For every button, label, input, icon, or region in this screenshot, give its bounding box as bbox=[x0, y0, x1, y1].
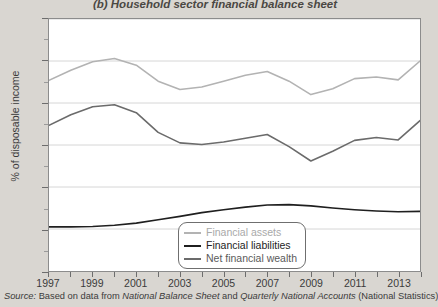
x-axis-tick bbox=[421, 272, 422, 277]
legend-item-financial-assets: Financial assets bbox=[184, 226, 297, 239]
x-axis-tick-label: 1999 bbox=[70, 277, 114, 289]
x-axis-tick-label: 2007 bbox=[245, 277, 289, 289]
x-axis-tick-label: 2013 bbox=[377, 277, 421, 289]
legend-label: Net financial wealth bbox=[206, 252, 297, 265]
legend-swatch-icon bbox=[184, 258, 201, 260]
legend-item-net-financial-wealth: Net financial wealth bbox=[184, 252, 297, 265]
y-axis-title: % of disposable income bbox=[9, 51, 21, 201]
x-axis-tick-label: 2005 bbox=[202, 277, 246, 289]
legend-label: Financial liabilities bbox=[206, 239, 291, 252]
y-axis-tick bbox=[42, 103, 48, 104]
legend-swatch-icon bbox=[184, 232, 201, 234]
series-line bbox=[49, 58, 420, 94]
y-axis-tick bbox=[42, 230, 48, 231]
source-text-2: and bbox=[220, 291, 241, 301]
source-note: Source: Based on data from National Bala… bbox=[4, 291, 430, 301]
legend-swatch-icon bbox=[184, 245, 201, 247]
chart-title: (b) Household sector financial balance s… bbox=[0, 0, 430, 11]
y-axis-tick bbox=[42, 60, 48, 61]
series-line bbox=[49, 105, 420, 161]
y-axis-tick bbox=[42, 187, 48, 188]
x-axis-tick-label: 2001 bbox=[114, 277, 158, 289]
legend-label: Financial assets bbox=[206, 226, 281, 239]
source-text-3: (National Statistics) bbox=[356, 291, 438, 301]
x-axis-tick-label: 2009 bbox=[289, 277, 333, 289]
y-axis-minor-tick bbox=[44, 251, 48, 252]
x-axis-tick-label: 2011 bbox=[333, 277, 377, 289]
x-axis-tick-label: 2003 bbox=[158, 277, 202, 289]
chart-legend: Financial assets Financial liabilities N… bbox=[178, 222, 306, 269]
y-axis-tick bbox=[42, 18, 48, 19]
y-axis-minor-tick bbox=[44, 39, 48, 40]
x-axis-tick-label: 1997 bbox=[26, 277, 70, 289]
y-axis-minor-tick bbox=[44, 209, 48, 210]
source-italic-2: Quarterly National Accounts bbox=[240, 291, 355, 301]
y-axis-minor-tick bbox=[44, 166, 48, 167]
y-axis-tick bbox=[42, 145, 48, 146]
y-axis-minor-tick bbox=[44, 82, 48, 83]
source-text-1: Based on data from bbox=[36, 291, 122, 301]
legend-item-financial-liabilities: Financial liabilities bbox=[184, 239, 297, 252]
source-italic-1: National Balance Sheet bbox=[122, 291, 219, 301]
y-axis-minor-tick bbox=[44, 124, 48, 125]
source-lead: Source: bbox=[4, 291, 36, 301]
